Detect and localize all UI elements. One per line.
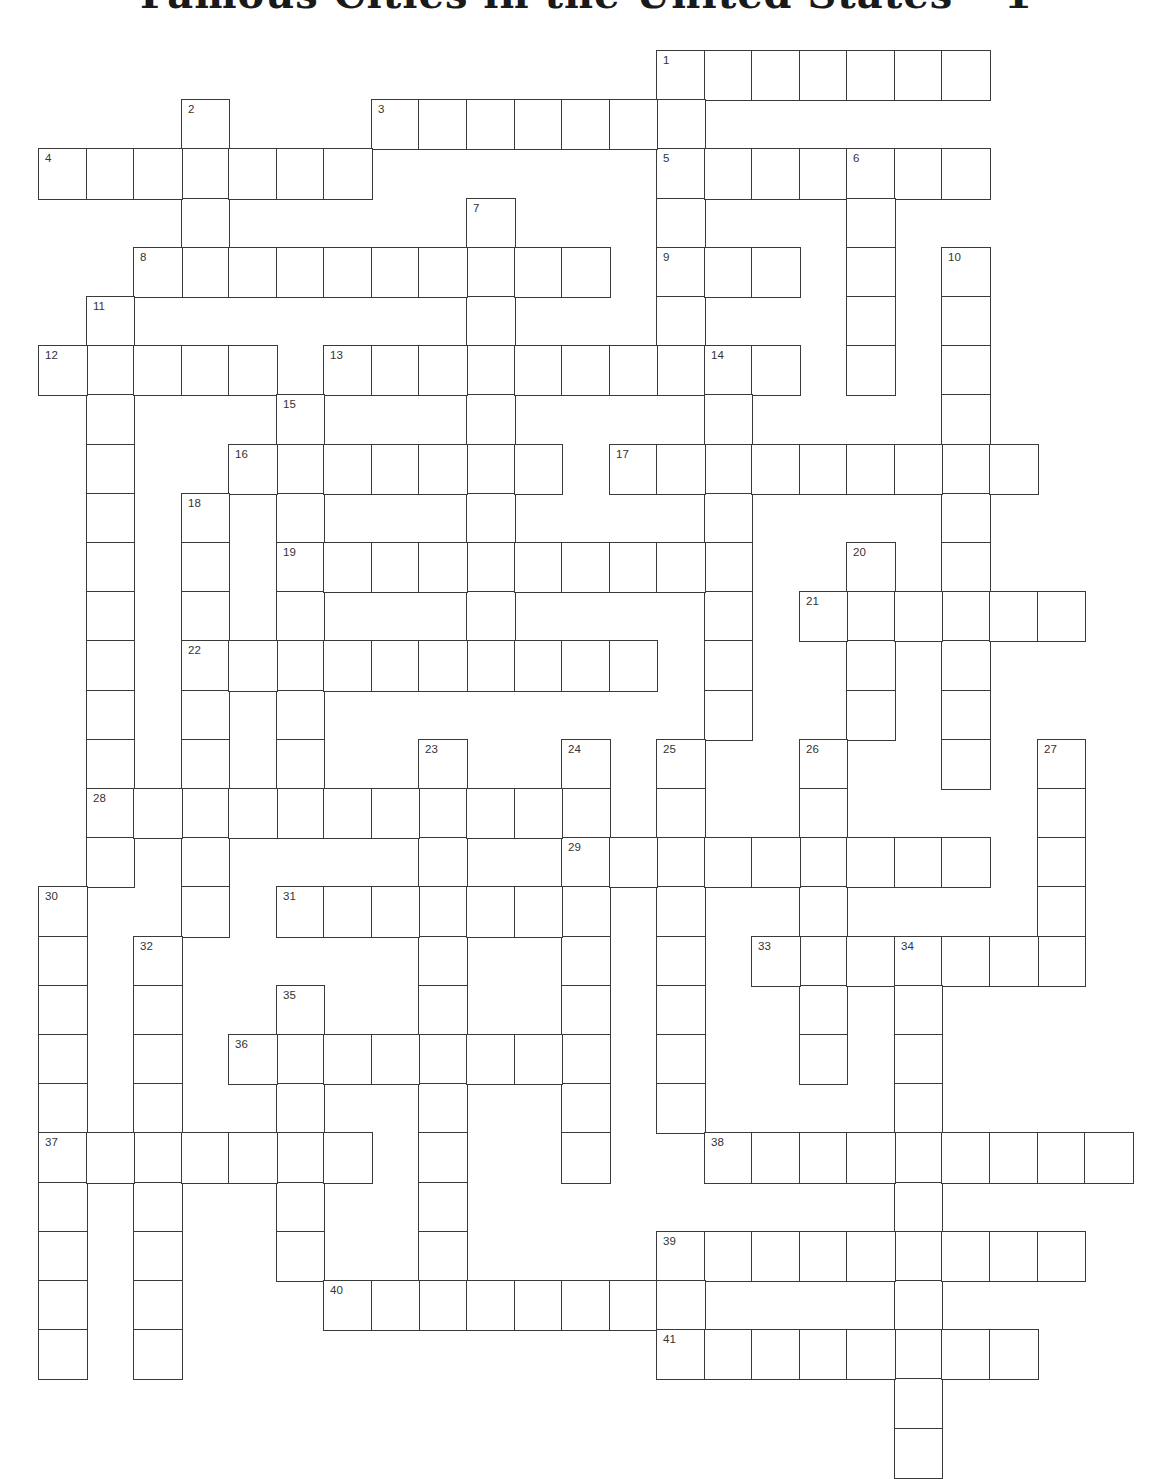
grid-cell[interactable]: [86, 394, 135, 446]
grid-cell[interactable]: [181, 247, 230, 298]
grid-cell[interactable]: [941, 148, 991, 200]
letter-input[interactable]: [562, 248, 610, 297]
letter-input[interactable]: [847, 199, 895, 248]
grid-cell[interactable]: [561, 247, 611, 298]
grid-cell[interactable]: 6: [846, 148, 896, 200]
grid-cell[interactable]: [276, 788, 325, 839]
letter-input[interactable]: [610, 641, 657, 691]
letter-input[interactable]: [467, 887, 515, 937]
letter-input[interactable]: [1038, 1232, 1085, 1281]
grid-cell[interactable]: [371, 1280, 420, 1331]
grid-cell[interactable]: [514, 542, 563, 593]
letter-input[interactable]: [1085, 1133, 1133, 1183]
grid-cell[interactable]: [846, 936, 896, 987]
grid-cell[interactable]: 26: [799, 739, 848, 790]
letter-input[interactable]: [895, 1133, 942, 1183]
letter-input[interactable]: [752, 937, 800, 986]
grid-cell[interactable]: [989, 936, 1039, 987]
grid-cell[interactable]: 5: [656, 148, 706, 200]
letter-input[interactable]: [800, 1035, 847, 1084]
grid-cell[interactable]: [371, 247, 420, 298]
grid-cell[interactable]: 7: [466, 198, 516, 249]
grid-cell[interactable]: [371, 1034, 420, 1085]
letter-input[interactable]: [182, 543, 229, 592]
letter-input[interactable]: [990, 1232, 1038, 1281]
letter-input[interactable]: [800, 1330, 847, 1379]
grid-cell[interactable]: [846, 296, 896, 347]
letter-input[interactable]: [942, 297, 990, 346]
grid-cell[interactable]: [846, 444, 896, 495]
grid-cell[interactable]: 33: [751, 936, 801, 987]
grid-cell[interactable]: [418, 1034, 468, 1085]
letter-input[interactable]: [895, 1084, 942, 1133]
grid-cell[interactable]: [751, 247, 801, 298]
letter-input[interactable]: [467, 297, 515, 346]
letter-input[interactable]: [134, 1183, 182, 1232]
grid-cell[interactable]: [704, 50, 753, 101]
letter-input[interactable]: [87, 395, 134, 445]
letter-input[interactable]: [610, 838, 657, 887]
letter-input[interactable]: [515, 100, 562, 149]
grid-cell[interactable]: [418, 1083, 468, 1134]
grid-cell[interactable]: 25: [656, 739, 706, 790]
letter-input[interactable]: [705, 149, 752, 199]
letter-input[interactable]: [277, 1035, 324, 1084]
grid-cell[interactable]: 12: [38, 345, 88, 396]
letter-input[interactable]: [87, 494, 134, 543]
letter-input[interactable]: [657, 149, 705, 199]
grid-cell[interactable]: [656, 985, 706, 1036]
grid-cell[interactable]: [704, 1231, 753, 1282]
letter-input[interactable]: [229, 789, 277, 838]
grid-cell[interactable]: 20: [846, 542, 896, 593]
letter-input[interactable]: [182, 494, 229, 543]
grid-cell[interactable]: [276, 247, 325, 298]
grid-cell[interactable]: [323, 148, 373, 200]
grid-cell[interactable]: [466, 542, 516, 593]
letter-input[interactable]: [562, 838, 610, 887]
grid-cell[interactable]: [704, 148, 753, 200]
letter-input[interactable]: [372, 543, 419, 592]
letter-input[interactable]: [942, 740, 990, 789]
letter-input[interactable]: [419, 1035, 467, 1084]
letter-input[interactable]: [990, 1133, 1038, 1183]
grid-cell[interactable]: [894, 444, 943, 495]
letter-input[interactable]: [657, 199, 705, 248]
letter-input[interactable]: [324, 543, 372, 592]
grid-cell[interactable]: [38, 1231, 88, 1282]
grid-cell[interactable]: [656, 345, 706, 396]
grid-cell[interactable]: [466, 1034, 516, 1085]
grid-cell[interactable]: [846, 1231, 896, 1282]
grid-cell[interactable]: 22: [181, 640, 230, 692]
grid-cell[interactable]: [181, 591, 230, 642]
letter-input[interactable]: [752, 838, 800, 887]
letter-input[interactable]: [39, 887, 87, 937]
grid-cell[interactable]: [561, 1132, 611, 1184]
grid-cell[interactable]: [894, 837, 943, 888]
grid-cell[interactable]: [751, 837, 801, 888]
letter-input[interactable]: [657, 937, 705, 986]
grid-cell[interactable]: [751, 1329, 801, 1380]
letter-input[interactable]: [562, 789, 610, 838]
letter-input[interactable]: [419, 937, 467, 986]
grid-cell[interactable]: [894, 1034, 943, 1085]
grid-cell[interactable]: 14: [704, 345, 753, 396]
letter-input[interactable]: [467, 346, 515, 395]
letter-input[interactable]: [467, 641, 515, 691]
grid-cell[interactable]: [371, 886, 420, 938]
grid-cell[interactable]: [181, 739, 230, 790]
grid-cell[interactable]: [38, 936, 88, 987]
letter-input[interactable]: [277, 543, 324, 592]
letter-input[interactable]: [562, 887, 610, 937]
grid-cell[interactable]: [466, 296, 516, 347]
letter-input[interactable]: [800, 445, 847, 494]
grid-cell[interactable]: [704, 394, 753, 446]
grid-cell[interactable]: [86, 1132, 135, 1184]
letter-input[interactable]: [705, 248, 752, 297]
letter-input[interactable]: [800, 887, 847, 937]
grid-cell[interactable]: 32: [133, 936, 183, 987]
grid-cell[interactable]: [941, 542, 991, 593]
letter-input[interactable]: [372, 1035, 419, 1084]
grid-cell[interactable]: [371, 640, 420, 692]
grid-cell[interactable]: [751, 1231, 801, 1282]
grid-cell[interactable]: 17: [609, 444, 658, 495]
